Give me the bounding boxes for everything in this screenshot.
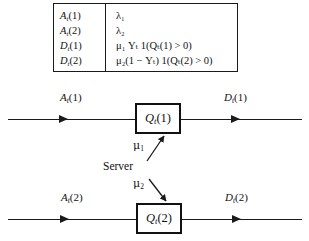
table-definition-cell: μ₁ Yₜ 1(Qₜ(1) > 0) <box>116 38 235 53</box>
queue2-departure-arrowhead <box>232 215 241 223</box>
symbol-argument: (1) <box>68 10 80 21</box>
mu1-arrow <box>147 136 164 161</box>
symbol-argument: (1) <box>70 40 82 51</box>
queue1-box: Qt(1) <box>135 103 181 134</box>
definition-table: At(1) At(2) Dt(1) Dt(2) λ₁ λ₂ μ₁ Yₜ 1(Qₜ… <box>53 3 238 72</box>
table-symbol-column: At(1) At(2) Dt(1) Dt(2) <box>60 8 106 68</box>
symbol-base: D <box>60 55 68 66</box>
queue1-departure-arrowhead <box>231 115 240 123</box>
queue1-arrival-arrowhead <box>59 115 68 123</box>
symbol-base: D <box>60 40 68 51</box>
queue2-box-base: Q <box>146 211 155 225</box>
queue2-departure-line <box>181 219 302 220</box>
queue1-arrival-label: At(1) <box>60 92 82 105</box>
table-row: Dt(1) <box>60 38 106 53</box>
symbol-argument: (2) <box>68 25 80 36</box>
symbol-argument: (2) <box>70 55 82 66</box>
queue1-arrival-line <box>8 119 136 120</box>
queue2-box: Qt(2) <box>136 203 182 234</box>
queue2-arrival-line <box>8 219 137 220</box>
table-row: Dt(2) <box>60 53 106 68</box>
queue1-departure-label: Dt(1) <box>224 92 247 105</box>
table-definition-column: λ₁ λ₂ μ₁ Yₜ 1(Qₜ(1) > 0) μ₂(1 − Yₜ) 1(Qₜ… <box>116 8 235 68</box>
table-row: At(2) <box>60 23 106 38</box>
server-label: Server <box>103 161 133 173</box>
figure-canvas: At(1) At(2) Dt(1) Dt(2) λ₁ λ₂ μ₁ Yₜ 1(Qₜ… <box>0 0 309 241</box>
table-definition-cell: λ₂ <box>116 23 235 38</box>
queue2-arrival-label: At(2) <box>61 192 83 205</box>
mu2-arrow <box>149 179 166 201</box>
server-rate-mu1-label: μ1 <box>133 140 144 153</box>
queue1-box-argument: (1) <box>156 111 171 125</box>
queue2-departure-label: Dt(2) <box>225 192 248 205</box>
server-rate-mu2-label: μ2 <box>133 178 144 191</box>
queue1-departure-line <box>180 119 302 120</box>
queue2-arrival-arrowhead <box>60 215 69 223</box>
queue1-box-base: Q <box>145 111 154 125</box>
table-row: At(1) <box>60 8 106 23</box>
table-definition-cell: λ₁ <box>116 8 235 23</box>
queue2-box-argument: (2) <box>157 211 172 225</box>
table-definition-cell: μ₂(1 − Yₜ) 1(Qₜ(2) > 0) <box>116 53 235 68</box>
